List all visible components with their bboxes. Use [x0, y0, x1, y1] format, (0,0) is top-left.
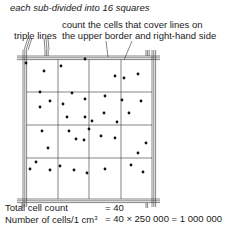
cell-dot	[25, 62, 28, 65]
cell-dot	[88, 128, 91, 131]
cell-dot	[39, 106, 42, 109]
cell-dot	[75, 138, 78, 141]
cell-dot	[86, 172, 89, 175]
total-count-value: = 40	[105, 202, 124, 213]
cell-dot	[100, 135, 103, 138]
cell-dot	[142, 171, 145, 174]
cell-dot	[71, 92, 74, 95]
cell-dot	[73, 169, 76, 172]
cell-dot	[116, 121, 119, 124]
annotation-leader-lines	[24, 38, 132, 60]
cell-dot	[84, 98, 87, 101]
cell-dot	[41, 130, 44, 133]
cell-dot	[49, 169, 52, 172]
cells-per-cm3-value: = 40 × 250 000 = 1 000 000	[105, 213, 222, 224]
triple-line-ticks	[22, 50, 149, 208]
cm3-exponent: 3	[94, 215, 97, 221]
cell-dot	[130, 164, 133, 167]
cells-per-cm3-label: Number of cells/1 cm3	[5, 213, 98, 225]
cell-dot	[43, 70, 46, 73]
cell-dot	[114, 75, 117, 78]
cell-dot	[114, 137, 117, 140]
cell-dot	[104, 95, 107, 98]
cell-dot	[137, 73, 140, 76]
cell-dots	[25, 58, 148, 175]
cells-per-cm3-text: Number of cells/1 cm	[5, 214, 94, 225]
cell-dot	[49, 100, 52, 103]
cell-dot	[91, 120, 94, 123]
cell-dot	[59, 165, 62, 168]
cell-dot	[60, 65, 63, 68]
cell-dot	[103, 112, 106, 115]
counting-chamber-grid	[0, 0, 236, 228]
cell-dot	[128, 112, 131, 115]
cell-dot	[84, 116, 87, 119]
cell-dot	[66, 116, 69, 119]
cell-dot	[140, 100, 143, 103]
cell-dot	[62, 103, 65, 106]
cell-dot	[35, 161, 38, 164]
cell-dot	[137, 152, 140, 155]
total-count-label: Total cell count	[5, 202, 68, 213]
cell-dot	[83, 139, 86, 142]
cell-dot	[47, 147, 50, 150]
cell-dot	[29, 168, 32, 171]
cell-dot	[123, 77, 126, 80]
cell-dot	[145, 142, 148, 145]
cell-dot	[39, 91, 42, 94]
cell-dot	[121, 99, 124, 102]
cell-dot	[104, 168, 107, 171]
cell-dot	[84, 58, 87, 61]
cell-dot	[68, 130, 71, 133]
